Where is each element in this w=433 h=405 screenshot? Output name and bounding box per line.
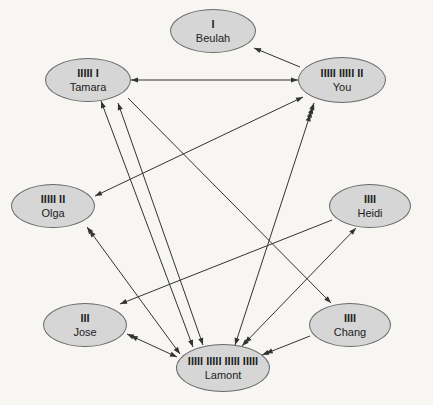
arrowhead-icon (101, 101, 106, 108)
arrowhead-icon (170, 352, 177, 357)
arrowhead-icon (296, 97, 303, 102)
node-chang: IIIIChang (309, 303, 391, 347)
edge-you-beulah (254, 48, 300, 67)
node-jose: IIIJose (43, 303, 127, 347)
tally-marks: IIIII I (77, 67, 98, 79)
node-name: Heidi (357, 206, 382, 220)
arrowhead-icon (291, 77, 298, 82)
tally-marks: IIIII II (41, 193, 65, 205)
arrowhead-icon (131, 77, 138, 82)
node-beulah: IBeulah (170, 9, 256, 53)
arrowhead-icon (95, 191, 102, 196)
arrowhead-icon (254, 48, 261, 53)
edge-olga-you (95, 97, 303, 196)
node-name: You (333, 80, 352, 94)
edge-lamont-tamara (118, 103, 203, 345)
tally-marks: III (80, 312, 89, 324)
node-lamont: IIIII IIIII IIIII IIIIILamont (176, 344, 270, 392)
tally-marks: I (211, 18, 214, 30)
arrowhead-icon (174, 347, 180, 354)
arrowhead-icon (198, 338, 203, 345)
edge-tamara-chang (128, 98, 331, 303)
node-name: Chang (334, 325, 366, 339)
node-name: Beulah (196, 31, 230, 45)
arrowhead-icon (188, 340, 193, 347)
arrowhead-icon (120, 299, 127, 304)
arrowhead-icon (118, 103, 123, 110)
node-you: IIIII IIIII IIYou (298, 57, 386, 103)
node-tamara: IIIII ITamara (45, 58, 131, 102)
tally-marks: IIIII IIIII IIIII IIIII (188, 355, 258, 367)
node-name: Lamont (205, 368, 242, 382)
node-name: Jose (73, 325, 96, 339)
tally-marks: IIII (344, 312, 356, 324)
node-olga: IIIII IIOlga (11, 184, 95, 228)
edge-heidi-jose (120, 220, 332, 304)
node-name: Tamara (70, 80, 107, 94)
node-heidi: IIIIHeidi (329, 184, 411, 228)
tally-marks: IIII (364, 193, 376, 205)
node-name: Olga (41, 206, 64, 220)
edge-lamont-you (235, 103, 314, 345)
tally-marks: IIIII IIIII II (321, 67, 364, 79)
